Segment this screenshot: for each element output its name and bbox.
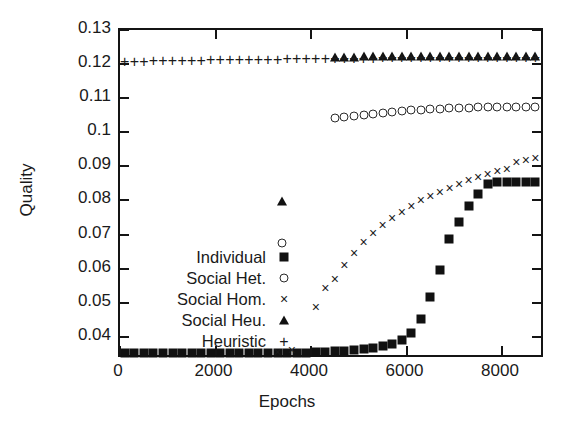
chart-page: Quality 0.040.050.060.070.080.090.10.110…: [0, 0, 574, 427]
data-point-plus: +: [328, 51, 341, 64]
y-axis-tick-label: 0.12: [78, 53, 111, 70]
chart-legend: IndividualSocial Het.Social Hom.×Social …: [152, 247, 292, 352]
x-axis-tick-label: 4000: [290, 362, 328, 379]
data-point-plus: +: [300, 52, 313, 65]
legend-entry: Social Het.: [152, 268, 292, 289]
data-point-plus: +: [405, 51, 418, 64]
x-axis-tick-label: 2000: [195, 362, 233, 379]
y-axis-tick-right: [532, 268, 541, 270]
y-axis-tick-right: [532, 29, 541, 31]
y-axis-tick-right: [532, 165, 541, 167]
y-axis-tick-right: [532, 336, 541, 338]
legend-label: Heuristic: [202, 331, 266, 352]
data-point-plus: +: [462, 50, 475, 63]
y-axis-tick-right: [532, 63, 541, 65]
data-point-plus: +: [510, 50, 523, 63]
data-point-plus: +: [529, 50, 542, 63]
data-point-plus: +: [357, 51, 370, 64]
data-point-plus: +: [414, 50, 427, 63]
data-point-plus: +: [204, 53, 217, 66]
data-point-plus: +: [309, 51, 322, 64]
x-axis-tick-top: [310, 30, 312, 39]
data-point-plus: +: [262, 52, 275, 65]
y-axis-tick: [120, 131, 129, 133]
y-axis-tick-right: [532, 302, 541, 304]
data-point-plus: +: [424, 50, 437, 63]
data-point-plus: +: [338, 51, 351, 64]
x-axis-tick-label: 0: [113, 362, 122, 379]
data-point-plus: +: [290, 52, 303, 65]
data-point-plus: +: [156, 54, 169, 67]
y-axis-tick: [120, 97, 129, 99]
y-axis-tick-right: [532, 199, 541, 201]
data-point-plus: +: [185, 53, 198, 66]
y-axis-tick-label: 0.08: [78, 189, 111, 206]
data-point-open-circle: [280, 274, 289, 283]
data-point-plus: +: [271, 52, 284, 65]
y-axis-tick: [120, 29, 129, 31]
data-point-plus: +: [519, 50, 532, 63]
data-point-plus: +: [214, 53, 227, 66]
data-point-plus: +: [472, 50, 485, 63]
x-axis-tick-label: 8000: [481, 362, 519, 379]
data-point-plus: +: [223, 52, 236, 65]
y-axis-tick-label: 0.06: [78, 258, 111, 275]
x-axis-tick: [406, 346, 408, 355]
legend-label: Social Hom.: [177, 289, 266, 310]
data-point-plus: +: [137, 54, 150, 67]
legend-label: Individual: [196, 247, 266, 268]
y-axis-tick-label: 0.05: [78, 292, 111, 309]
data-point-plus: +: [347, 51, 360, 64]
x-axis-tick-top: [501, 30, 503, 39]
y-axis-tick: [120, 63, 129, 65]
data-point-plus: +: [128, 55, 141, 68]
x-axis-tick: [501, 346, 503, 355]
y-axis-tick-right: [532, 234, 541, 236]
legend-entry: Heuristic+: [152, 331, 292, 352]
legend-marker-plus: +: [278, 341, 292, 355]
data-point-plus: +: [176, 54, 189, 67]
legend-entry: Social Heu.: [152, 310, 292, 331]
data-point-plus: +: [281, 52, 294, 65]
data-point-plus: +: [500, 50, 513, 63]
x-axis-tick-top: [215, 30, 217, 39]
data-point-plus: +: [376, 51, 389, 64]
y-axis-tick-label: 0.04: [78, 326, 111, 343]
legend-label: Social Heu.: [182, 310, 266, 331]
data-point-plus: +: [242, 52, 255, 65]
legend-entry: Individual: [152, 247, 292, 268]
data-point-plus: +: [233, 52, 246, 65]
data-point-plus: +: [278, 335, 291, 348]
y-axis-tick: [120, 165, 129, 167]
y-axis-tick: [120, 336, 129, 338]
data-point-plus: +: [367, 51, 380, 64]
data-point-plus: +: [252, 52, 265, 65]
y-axis-tick: [120, 268, 129, 270]
y-axis-tick-right: [532, 131, 541, 133]
y-axis-tick-label: 0.1: [87, 121, 111, 138]
y-axis-tick: [120, 302, 129, 304]
y-axis-tick-label: 0.13: [78, 19, 111, 36]
y-axis-tick: [120, 199, 129, 201]
data-point-plus: +: [443, 50, 456, 63]
data-point-plus: +: [147, 54, 160, 67]
y-axis-tick: [120, 234, 129, 236]
data-point-plus: +: [195, 53, 208, 66]
x-axis-tick-label: 6000: [386, 362, 424, 379]
data-point-plus: +: [118, 55, 131, 68]
x-axis-tick: [310, 346, 312, 355]
data-point-plus: +: [386, 51, 399, 64]
data-point-plus: +: [481, 50, 494, 63]
y-axis-tick-label: 0.09: [78, 155, 111, 172]
y-axis-tick-label: 0.11: [79, 87, 111, 104]
data-point-plus: +: [453, 50, 466, 63]
data-point-plus: +: [166, 54, 179, 67]
data-point-plus: +: [395, 51, 408, 64]
data-point-plus: +: [433, 50, 446, 63]
data-point-filled-triangle: [279, 316, 289, 325]
y-axis-tick-label: 0.07: [78, 224, 111, 241]
y-axis-tick-labels: 0.040.050.060.070.080.090.10.110.120.13: [0, 0, 111, 427]
legend-entry: Social Hom.×: [152, 289, 292, 310]
data-point-plus: +: [319, 51, 332, 64]
legend-label: Social Het.: [186, 268, 266, 289]
